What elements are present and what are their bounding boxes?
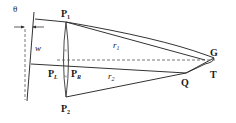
t-label: T	[210, 69, 217, 80]
optics-diagram: θ w P1 P2 PL PR ≈ ≈ r1 r2 G T Q	[0, 0, 236, 123]
tilted-surface-line	[27, 12, 34, 101]
approx-top-mark: ≈	[64, 48, 67, 53]
q-label: Q	[181, 77, 189, 88]
g-label: G	[210, 47, 218, 58]
ray-p1-to-g-outer	[66, 22, 214, 58]
lens-shape	[64, 22, 69, 97]
theta-arrowhead-left	[21, 26, 25, 29]
theta-label: θ	[13, 4, 17, 14]
r1-label: r1	[113, 40, 120, 51]
pl-label: PL	[48, 68, 58, 80]
ray-p1-to-t-inner	[66, 22, 205, 60]
diagram-canvas: θ w P1 P2 PL PR ≈ ≈ r1 r2 G T Q	[0, 0, 236, 123]
p1-label: P1	[61, 8, 70, 20]
approx-bottom-mark: ≈	[64, 74, 67, 79]
p2-label: P2	[61, 103, 70, 115]
ray-top-to-p1	[35, 19, 66, 22]
ray-p2-to-q	[66, 73, 186, 97]
pr-label: PR	[71, 68, 81, 80]
r2-label: r2	[108, 71, 115, 82]
w-label: w	[35, 43, 41, 53]
